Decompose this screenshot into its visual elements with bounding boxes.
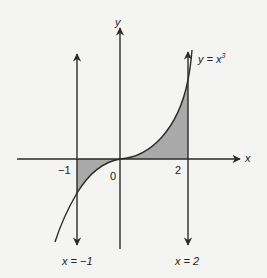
x-axis-label: x — [245, 152, 251, 164]
line-right-label: x = 2 — [175, 255, 199, 267]
y-axis-label: y — [115, 16, 121, 28]
tick-0: 0 — [110, 170, 116, 182]
curve-label: y = x3 — [198, 52, 225, 65]
area-diagram — [0, 0, 267, 278]
tick-neg1: −1 — [58, 164, 71, 176]
shaded-region-right — [120, 80, 188, 159]
tick-2: 2 — [175, 164, 181, 176]
line-left-label: x = −1 — [62, 255, 93, 267]
